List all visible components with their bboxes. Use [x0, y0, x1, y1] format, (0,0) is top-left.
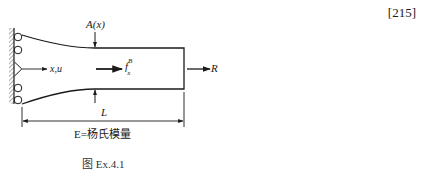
- length-label: L: [101, 107, 107, 118]
- end-load-label: R: [211, 63, 218, 74]
- figure: [215] A(x) x,u fBx R L E=杨氏模量 图 Ex.4.1: [0, 0, 438, 177]
- roller-support-icon: [14, 33, 22, 104]
- fixed-wall-icon: [9, 28, 14, 104]
- body-force-label: fBx: [125, 60, 135, 75]
- coordinate-label: x,u: [50, 64, 62, 74]
- body-force-subscript: x: [127, 69, 130, 77]
- figure-caption: 图 Ex.4.1: [82, 159, 124, 170]
- material-label: E=杨氏模量: [74, 129, 131, 140]
- bar-diagram: [0, 0, 438, 177]
- area-label: A(x): [86, 19, 105, 30]
- body-force-superscript: B: [128, 57, 132, 65]
- page-reference: [215]: [388, 6, 416, 19]
